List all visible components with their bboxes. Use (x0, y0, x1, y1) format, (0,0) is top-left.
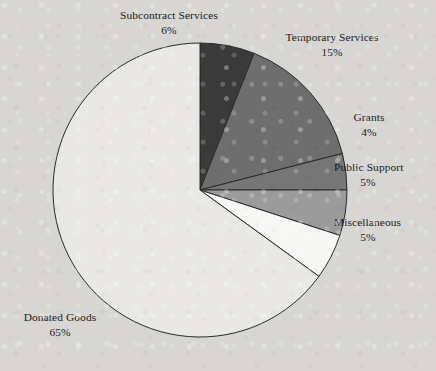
slice-label-donated-goods: Donated Goods 65% (4, 310, 116, 339)
slice-label-value: 4% (326, 125, 412, 140)
slice-label-value: 65% (4, 325, 116, 340)
slice-label-value: 6% (104, 23, 234, 38)
slice-label-subcontract-services: Subcontract Services 6% (104, 8, 234, 37)
slice-label-name: Grants (326, 110, 412, 125)
slice-label-value: 5% (334, 175, 436, 190)
slice-label-temporary-services: Temporary Services 15% (262, 30, 402, 59)
slice-label-miscellaneous: Miscellaneous 5% (334, 215, 436, 244)
pie-chart-figure: Subcontract Services 6% Temporary Servic… (0, 0, 436, 371)
slice-label-name: Subcontract Services (104, 8, 234, 23)
slice-label-name: Donated Goods (4, 310, 116, 325)
slice-label-name: Miscellaneous (334, 215, 436, 230)
slice-label-public-support: Public Support 5% (334, 160, 436, 189)
slice-label-name: Public Support (334, 160, 436, 175)
slice-label-value: 15% (262, 45, 402, 60)
slice-label-grants: Grants 4% (326, 110, 412, 139)
pie-slice-group (53, 43, 347, 337)
slice-label-name: Temporary Services (262, 30, 402, 45)
slice-label-value: 5% (334, 230, 436, 245)
